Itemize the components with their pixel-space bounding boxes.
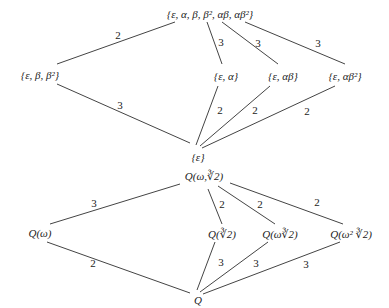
edge-label: 3 <box>303 258 309 270</box>
edge-label: 3 <box>315 37 321 49</box>
node-trivial: {ε} <box>191 151 204 163</box>
edge-label: 3 <box>91 197 97 209</box>
edge-label: 2 <box>252 104 258 116</box>
node-full-group: {ε, α, β, β², αβ, αβ²} <box>167 8 253 20</box>
edge-label: 3 <box>253 257 259 269</box>
node-q-omega2-cbrt2: Q(ω² ∛2) <box>330 228 372 241</box>
edge-label: 2 <box>219 198 225 210</box>
node-subgroup-alpha: {ε, α} <box>214 70 238 82</box>
node-splitting-field: Q(ω,∛2) <box>185 170 223 183</box>
edge-label: 2 <box>257 198 263 210</box>
node-subgroup-alphabeta2: {ε, αβ²} <box>328 70 361 82</box>
node-q-omega-cbrt2: Q(ω∛2) <box>262 228 298 241</box>
edge-label: 3 <box>117 99 123 111</box>
node-subgroup-beta: {ε, β, β²} <box>21 69 59 81</box>
node-q-cbrt2: Q(∛2) <box>208 228 236 241</box>
edge-label: 3 <box>255 37 261 49</box>
edge-label: 2 <box>217 104 223 116</box>
edge-label: 3 <box>218 36 224 48</box>
node-subgroup-alphabeta: {ε, αβ} <box>268 70 298 82</box>
edge-label: 2 <box>314 196 320 208</box>
node-rationals: Q <box>194 294 202 306</box>
edge-label: 2 <box>90 257 96 269</box>
node-q-omega: Q(ω) <box>28 227 51 239</box>
edge-label: 2 <box>115 29 121 41</box>
edge-label: 3 <box>218 256 224 268</box>
edge-label: 2 <box>304 105 310 117</box>
